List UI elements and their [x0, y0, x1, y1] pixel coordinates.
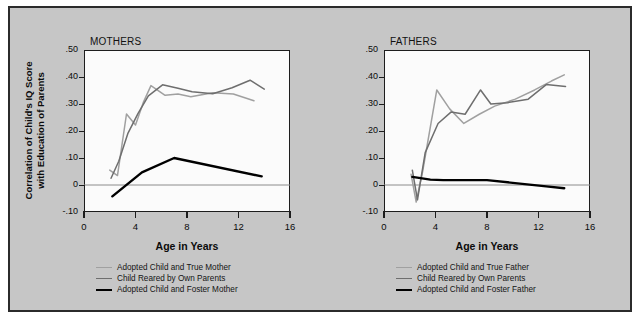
y-tick-mark	[79, 104, 85, 105]
y-tick-mark	[79, 77, 85, 78]
legend-item: Adopted Child and True Father	[396, 262, 592, 273]
legend-label: Adopted Child and Foster Father	[417, 285, 536, 294]
x-tick-mark	[486, 211, 487, 218]
data-series-line	[412, 177, 564, 188]
x-tick-label: 0	[69, 221, 99, 232]
x-tick-mark	[435, 211, 436, 218]
y-tick-label: .10	[44, 152, 78, 162]
y-tick-label: .50	[344, 44, 378, 54]
panel-fathers: FATHERS .50.40.30.20.100-.10 0481216 Age…	[310, 8, 622, 314]
y-tick-mark	[379, 77, 385, 78]
x-tick-mark	[186, 211, 187, 218]
legend-item: Adopted Child and Foster Mother	[96, 284, 292, 295]
y-tick-mark	[379, 185, 385, 186]
legend-swatch-icon	[396, 267, 412, 268]
x-tick-label: 12	[224, 221, 254, 232]
y-tick-label: 0	[344, 179, 378, 189]
data-series-line	[112, 158, 261, 196]
y-tick-mark	[379, 131, 385, 132]
data-series-line	[411, 75, 564, 202]
x-tick-label: 8	[472, 221, 502, 232]
y-tick-mark	[79, 185, 85, 186]
legend-item: Child Reared by Own Parents	[96, 273, 292, 284]
x-tick-mark	[383, 211, 384, 218]
x-tick-label: 0	[369, 221, 399, 232]
y-tick-label: 0	[44, 179, 78, 189]
x-tick-mark	[83, 211, 84, 218]
y-tick-mark	[379, 104, 385, 105]
y-tick-label: .30	[344, 98, 378, 108]
x-tick-label: 16	[275, 221, 305, 232]
x-axis-title: Age in Years	[384, 240, 590, 252]
x-axis-title: Age in Years	[84, 240, 290, 252]
y-tick-mark	[79, 131, 85, 132]
legend-label: Child Reared by Own Parents	[417, 274, 525, 283]
y-tick-label: -.10	[344, 206, 378, 216]
x-tick-mark	[135, 211, 136, 218]
legend-item: Adopted Child and Foster Father	[396, 284, 592, 295]
x-tick-label: 4	[121, 221, 151, 232]
legend-swatch-icon	[396, 289, 412, 291]
legend-swatch-icon	[96, 278, 112, 279]
y-tick-label: .50	[44, 44, 78, 54]
y-tick-mark	[379, 158, 385, 159]
x-tick-mark	[589, 211, 590, 218]
x-tick-mark	[289, 211, 290, 218]
legend-label: Adopted Child and True Mother	[117, 263, 231, 272]
x-tick-mark	[538, 211, 539, 218]
legend-swatch-icon	[96, 267, 112, 268]
legend-item: Adopted Child and True Mother	[96, 262, 292, 273]
x-tick-mark	[238, 211, 239, 218]
x-tick-label: 16	[575, 221, 605, 232]
y-tick-label: .10	[344, 152, 378, 162]
data-series-line	[110, 86, 254, 176]
legend-fathers: Adopted Child and True FatherChild Reare…	[396, 262, 592, 295]
legend-label: Child Reared by Own Parents	[117, 274, 225, 283]
chart-figure: Correlation of Child's IQ Score with Edu…	[8, 6, 632, 312]
x-tick-label: 4	[421, 221, 451, 232]
x-tick-label: 8	[172, 221, 202, 232]
legend-label: Adopted Child and True Father	[417, 263, 529, 272]
data-series-line	[111, 80, 264, 178]
y-tick-label: .30	[44, 98, 78, 108]
y-tick-label: .40	[344, 71, 378, 81]
legend-swatch-icon	[96, 289, 112, 291]
legend-swatch-icon	[396, 278, 412, 279]
y-tick-label: .20	[44, 125, 78, 135]
legend-label: Adopted Child and Foster Mother	[117, 285, 238, 294]
y-tick-mark	[79, 158, 85, 159]
y-tick-label: .20	[344, 125, 378, 135]
legend-item: Child Reared by Own Parents	[396, 273, 592, 284]
panel-mothers: Correlation of Child's IQ Score with Edu…	[10, 8, 322, 314]
y-tick-label: .40	[44, 71, 78, 81]
x-tick-label: 12	[524, 221, 554, 232]
y-tick-label: -.10	[44, 206, 78, 216]
legend-mothers: Adopted Child and True MotherChild Reare…	[96, 262, 292, 295]
